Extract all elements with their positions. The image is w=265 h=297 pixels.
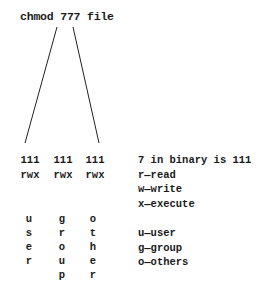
bits-value: 111: [48, 153, 78, 168]
vertical-word-user: u s e r: [14, 212, 44, 268]
legend-group: g—group: [138, 241, 251, 256]
letter: r: [47, 226, 77, 240]
letter: s: [14, 226, 44, 240]
letter: o: [47, 240, 77, 254]
perms-value: rwx: [80, 168, 110, 183]
letter: g: [47, 212, 77, 226]
group-group-bits: 111 rwx: [48, 153, 78, 183]
letter: e: [78, 254, 108, 268]
letter: o: [78, 212, 108, 226]
letter: u: [47, 254, 77, 268]
legend: 7 in binary is 111 r—read w—write x—exec…: [138, 153, 251, 270]
connector-line-left: [25, 27, 57, 143]
letter: r: [78, 268, 108, 282]
vertical-word-group: g r o u p: [47, 212, 77, 282]
bits-value: 111: [80, 153, 110, 168]
legend-spacer: [138, 211, 251, 226]
bits-value: 111: [15, 153, 45, 168]
perms-value: rwx: [15, 168, 45, 183]
legend-others: o—others: [138, 255, 251, 270]
group-others-bits: 111 rwx: [80, 153, 110, 183]
letter: t: [78, 226, 108, 240]
letter: u: [14, 212, 44, 226]
letter: h: [78, 240, 108, 254]
letter: p: [47, 268, 77, 282]
connector-line-right: [73, 27, 99, 143]
legend-write: w—write: [138, 182, 251, 197]
perms-value: rwx: [48, 168, 78, 183]
group-user-bits: 111 rwx: [15, 153, 45, 183]
legend-user: u—user: [138, 226, 251, 241]
vertical-word-other: o t h e r: [78, 212, 108, 282]
letter: r: [14, 254, 44, 268]
legend-read: r—read: [138, 168, 251, 183]
binary-note: 7 in binary is 111: [138, 153, 251, 168]
legend-execute: x—execute: [138, 197, 251, 212]
letter: e: [14, 240, 44, 254]
